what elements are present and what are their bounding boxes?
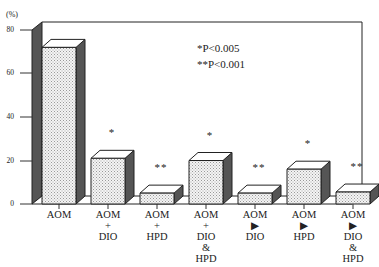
legend-item-p001: **P<0.001 [197,56,245,72]
bar-1 [125,150,134,204]
bar-1 [91,158,125,204]
significance-marker: ** [244,161,274,173]
bar-6 [336,192,370,204]
x-category-label: AOM + DIO [88,209,128,242]
significance-marker: ** [146,161,176,173]
x-category-label: AOM ▶ HPD [284,209,324,242]
bar-3 [223,153,232,205]
bar-0 [42,47,76,204]
legend-item-p005: *P<0.005 [197,40,245,56]
x-category-label: AOM [39,209,79,220]
x-category-label: AOM + DIO & HPD [186,209,226,264]
significance-marker: * [97,126,127,138]
legend: *P<0.005 **P<0.001 [197,40,245,72]
bar-3 [189,161,223,205]
bar-5 [287,169,321,204]
x-category-label: AOM ▶ DIO [235,209,275,242]
x-category-label: AOM ▶ DIO & HPD [333,209,373,264]
bar-0 [76,39,85,204]
significance-marker: * [195,129,225,141]
significance-marker: ** [342,160,372,172]
x-category-label: AOM + HPD [137,209,177,242]
bar-4 [238,193,272,204]
bar-2 [140,193,174,204]
significance-marker: * [293,137,323,149]
